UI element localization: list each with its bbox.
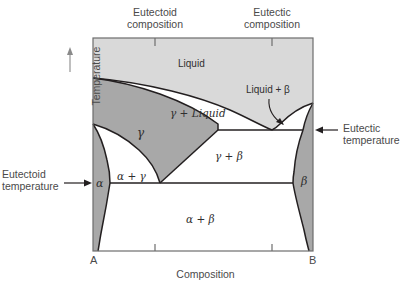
x-axis-endpoint-b: B [309,254,316,267]
y-axis-label: Temperature [90,36,102,116]
x-axis-label: Composition [0,268,411,280]
region-label-alpha-beta: α + β [186,213,215,225]
eutectoid-temperature-arrowhead [84,180,92,187]
annotation-eutectoid-temperature: Eutectoid temperature [2,168,64,193]
annotation-eutectoid-temperature-line1: Eutectoid [2,168,64,180]
region-label-gamma-beta: γ + β [215,150,243,162]
region-label-gamma-liquid: γ + Liquid [170,107,226,119]
region-label-beta: β [301,175,307,189]
region-label-gamma: γ [137,126,144,140]
region-label-alpha-gamma: α + γ [117,170,146,182]
x-axis-endpoint-a: A [90,254,97,267]
region-label-alpha: α [96,177,103,191]
temperature-axis-arrowhead [67,47,73,55]
region-label-liquid: Liquid [178,58,205,70]
annotation-eutectic-composition: Eutectic composition [222,6,322,31]
annotation-eutectoid-composition-line2: composition [105,18,205,30]
annotation-eutectoid-temperature-line2: temperature [2,180,64,192]
region-label-liquid-beta: Liquid + β [246,84,290,96]
eutectic-temperature-arrowhead [315,127,323,134]
annotation-eutectoid-composition-line1: Eutectoid [105,6,205,18]
annotation-eutectic-composition-line1: Eutectic [222,6,322,18]
annotation-eutectoid-composition: Eutectoid composition [105,6,205,31]
annotation-eutectic-composition-line2: composition [222,18,322,30]
annotation-eutectic-temperature-line2: temperature [343,134,400,146]
annotation-eutectic-temperature: Eutectic temperature [343,122,400,147]
phase-diagram-figure: Liquid γ + Liquid Liquid + β γ α β α + γ… [0,0,411,293]
annotation-eutectic-temperature-line1: Eutectic [343,122,400,134]
